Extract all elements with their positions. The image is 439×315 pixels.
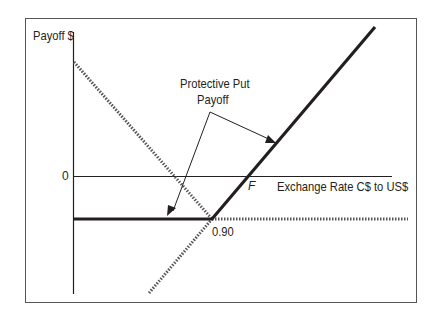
y-axis-label: Payoff $ bbox=[33, 29, 74, 42]
strike-label: 0.90 bbox=[212, 225, 234, 238]
annotation-leader-line bbox=[173, 112, 273, 211]
forward-label: F bbox=[248, 180, 255, 192]
arrowhead-right-icon bbox=[265, 135, 276, 143]
frame-border bbox=[26, 19, 417, 303]
zero-label: 0 bbox=[62, 170, 69, 182]
annotation-line1: Protective Put bbox=[180, 77, 250, 90]
x-axis-label: Exchange Rate C$ to US$ bbox=[277, 180, 408, 193]
forward-dotted-line bbox=[149, 219, 212, 293]
annotation-line2: Payoff bbox=[197, 93, 228, 106]
payoff-diagram bbox=[0, 0, 439, 315]
